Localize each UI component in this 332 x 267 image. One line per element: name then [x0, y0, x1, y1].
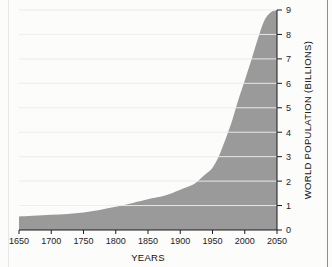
x-tick-label: 1800: [106, 236, 126, 246]
x-axis-ticks: [19, 230, 277, 234]
y-tick-label: 6: [286, 79, 291, 89]
x-tick-label: 1750: [73, 236, 93, 246]
x-tick-label: 1900: [170, 236, 190, 246]
x-tick-label: 2050: [267, 236, 287, 246]
y-axis-ticks: [277, 10, 282, 230]
x-tick-label: 1650: [9, 236, 29, 246]
x-tick-label: 2000: [235, 236, 255, 246]
y-tick-label: 7: [286, 54, 291, 64]
y-tick-label: 1: [286, 201, 291, 211]
chart-screenshot: 165017001750180018501900195020002050 012…: [0, 0, 332, 267]
world-population-chart: 165017001750180018501900195020002050 012…: [0, 0, 332, 267]
y-axis-title: WORLD POPULATION (BILLIONS): [302, 41, 313, 199]
population-area-fill: [19, 10, 277, 230]
x-tick-label: 1950: [202, 236, 222, 246]
y-tick-label: 2: [286, 177, 291, 187]
chart-svg: 165017001750180018501900195020002050 012…: [0, 0, 332, 267]
x-axis-title: YEARS: [131, 252, 165, 263]
x-axis-tick-labels: 165017001750180018501900195020002050: [9, 236, 287, 246]
y-tick-label: 3: [286, 152, 291, 162]
y-tick-label: 8: [286, 30, 291, 40]
y-tick-label: 4: [286, 128, 291, 138]
x-tick-label: 1700: [41, 236, 61, 246]
y-tick-label: 9: [286, 5, 291, 15]
y-axis-tick-labels: 0123456789: [286, 5, 291, 235]
y-tick-label: 0: [286, 225, 291, 235]
x-tick-label: 1850: [138, 236, 158, 246]
y-tick-label: 5: [286, 103, 291, 113]
